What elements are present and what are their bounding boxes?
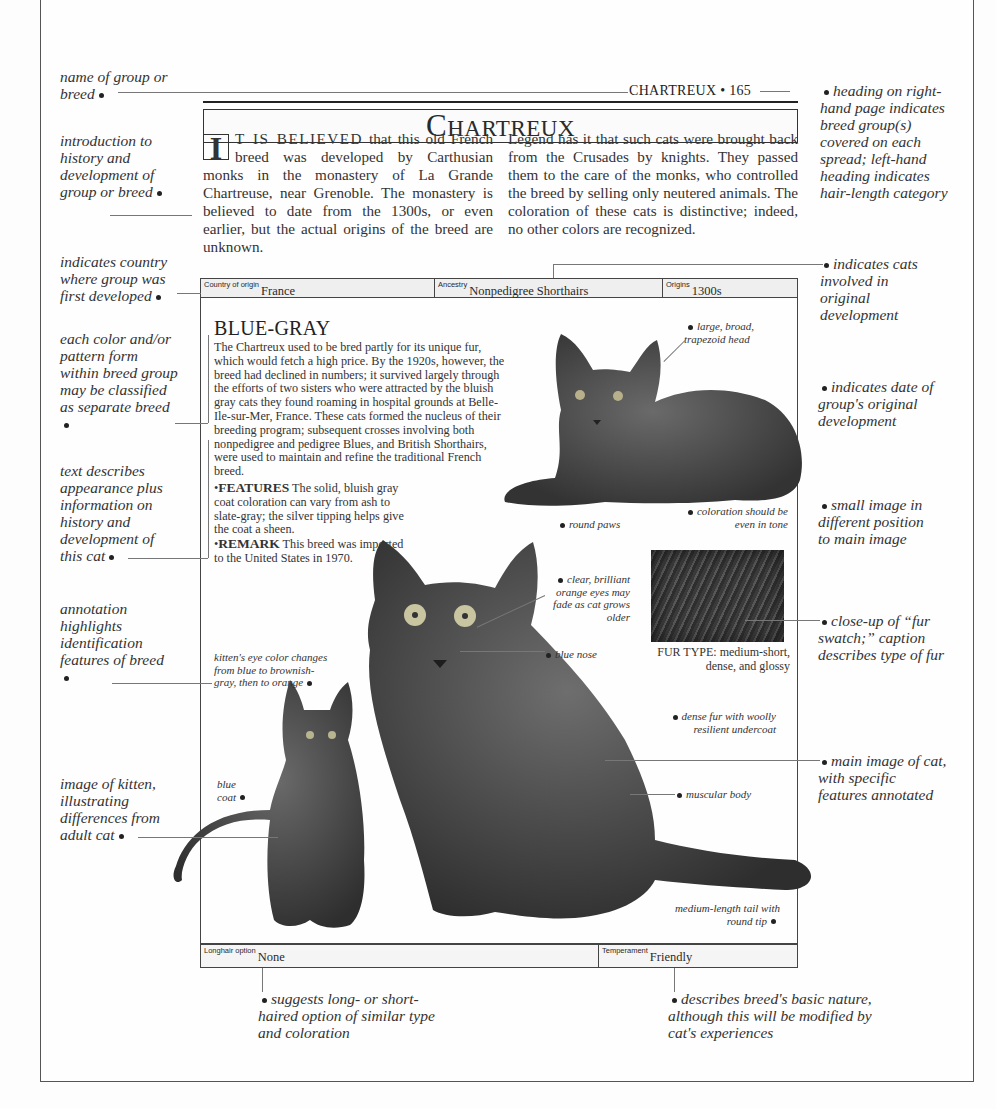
leader-line	[110, 215, 192, 216]
annotation-nose: blue nose	[542, 648, 597, 661]
leader-line	[553, 264, 823, 265]
intro-column-1: I T IS BELIEVED that this old French bre…	[203, 130, 493, 256]
annotation-fur: dense fur with woolly resilient undercoa…	[636, 710, 776, 735]
margin-note-right-6: main image of cat, with specific feature…	[818, 752, 948, 803]
leader-line	[138, 837, 278, 838]
margin-note-left-4: each color and/or pattern form within br…	[60, 330, 180, 432]
running-head: CHARTREUX • 165	[629, 83, 751, 99]
origins-label: Origins	[666, 280, 690, 289]
temperament: TemperamentFriendly	[599, 945, 797, 967]
intro-text-1: that this old French breed was developed…	[203, 130, 493, 255]
longhair-label: Longhair option	[204, 946, 256, 955]
origins-value: 1300s	[692, 284, 722, 298]
leader-line	[128, 558, 208, 559]
leader-line	[177, 293, 201, 294]
breed-description: The Chartreux used to be bred partly for…	[214, 341, 510, 479]
leader-line	[745, 620, 820, 621]
kitten-image	[170, 680, 370, 930]
info-bar: Country of originFrance AncestryNonpedig…	[200, 278, 798, 298]
intro-column-2: Legend has it that such cats were brough…	[508, 130, 798, 238]
margin-note-right-4: small image in different position to mai…	[818, 496, 928, 547]
annotation-coloration: coloration should be even in tone	[676, 505, 788, 530]
margin-note-right-1: heading on right-hand page indicates bre…	[820, 82, 950, 201]
annotation-paws: round paws	[556, 518, 620, 531]
margin-note-right-5: close-up of “fur swatch;” caption descri…	[818, 612, 948, 663]
ancestry-label: Ancestry	[438, 280, 467, 289]
ancestry: AncestryNonpedigree Shorthairs	[435, 279, 663, 297]
leader-line	[175, 423, 208, 424]
bottom-info-bar: Longhair optionNone TemperamentFriendly	[200, 944, 798, 968]
margin-note-bottom-2: describes breed's basic nature, although…	[668, 990, 898, 1041]
annotation-line	[630, 794, 675, 795]
country-value: France	[261, 284, 295, 298]
fur-type-label: FUR TYPE:	[657, 645, 716, 659]
margin-note-left-3: indicates country where group was first …	[60, 253, 185, 304]
fur-swatch-image	[651, 550, 784, 642]
margin-note-right-2: indicates cats involved in original deve…	[820, 255, 930, 323]
title-rule	[203, 101, 798, 103]
fur-type-text: medium-short, dense, and glossy	[706, 645, 790, 673]
leader-line	[674, 968, 675, 992]
longhair-option: Longhair optionNone	[201, 945, 599, 967]
margin-note-left-2: introduction to history and development …	[60, 132, 175, 200]
annotation-eyes: clear, brilliant orange eyes may fade as…	[538, 573, 630, 623]
leader-line	[553, 264, 554, 278]
intro-lead: T IS BELIEVED	[235, 130, 363, 147]
temperament-label: Temperament	[602, 946, 648, 955]
remark-label: REMARK	[218, 536, 280, 551]
annotation-line	[460, 651, 545, 652]
margin-note-left-7: image of kitten, illustrating difference…	[60, 775, 180, 843]
margin-note-left-5: text describes appearance plus informati…	[60, 462, 175, 564]
margin-note-bottom-1: suggests long- or short-haired option of…	[258, 990, 438, 1041]
margin-note-right-3: indicates date of group's original devel…	[818, 378, 938, 429]
leader-line	[760, 91, 790, 92]
origins: Origins1300s	[663, 279, 797, 297]
leader-line	[605, 760, 820, 761]
margin-note-left-1: name of group or breed	[60, 68, 170, 102]
longhair-value: None	[258, 950, 285, 964]
leader-line	[112, 683, 212, 684]
country-label: Country of origin	[204, 280, 259, 289]
annotation-body: muscular body	[673, 788, 751, 801]
annotation-coat: blue coat	[217, 778, 251, 803]
small-cat-image	[495, 330, 805, 510]
color-heading: BLUE-GRAY	[214, 317, 330, 340]
features-label: FEATURES	[218, 480, 289, 495]
temperament-value: Friendly	[650, 950, 692, 964]
country-of-origin: Country of originFrance	[201, 279, 435, 297]
annotation-tail: medium-length tail with round tip	[665, 902, 780, 927]
leader-line	[118, 92, 628, 93]
drop-cap: I	[203, 134, 229, 160]
margin-note-left-6: annotation highlights identification fea…	[60, 600, 175, 685]
bracket-line	[208, 440, 209, 558]
bracket-line	[208, 335, 209, 423]
color-heading-text: BLUE-GRAY	[214, 317, 330, 339]
annotation-head: large, broad, trapezoid head	[684, 320, 774, 345]
ancestry-value: Nonpedigree Shorthairs	[469, 284, 588, 298]
fur-type-caption: FUR TYPE: medium-short, dense, and gloss…	[640, 645, 790, 673]
leader-line	[262, 968, 263, 992]
annotation-kitten-eyes: kitten's eye color changes from blue to …	[214, 651, 334, 689]
